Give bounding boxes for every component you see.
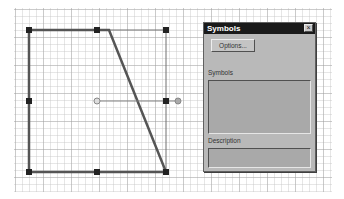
symbols-label: Symbols [208, 69, 233, 76]
symbols-dialog: Symbols × Options... Symbols Description [203, 22, 316, 172]
options-button[interactable]: Options... [211, 39, 255, 52]
close-button[interactable]: × [304, 24, 313, 32]
resize-handle-right[interactable] [163, 98, 169, 104]
resize-handle-bottom-right[interactable] [163, 169, 169, 175]
resize-handle-bottom-left[interactable] [26, 169, 32, 175]
dialog-titlebar[interactable]: Symbols × [204, 23, 315, 34]
resize-handle-top-right[interactable] [163, 27, 169, 33]
resize-handle-left[interactable] [26, 98, 32, 104]
description-label: Description [208, 137, 241, 144]
resize-handle-top[interactable] [94, 27, 100, 33]
rotation-handle[interactable] [175, 98, 181, 104]
resize-handle-top-left[interactable] [26, 27, 32, 33]
resize-handle-bottom[interactable] [94, 169, 100, 175]
dialog-title: Symbols [207, 23, 240, 34]
close-icon: × [306, 24, 310, 31]
rotation-center-handle[interactable] [94, 98, 100, 104]
symbols-list[interactable] [208, 80, 311, 134]
description-box [208, 148, 311, 168]
